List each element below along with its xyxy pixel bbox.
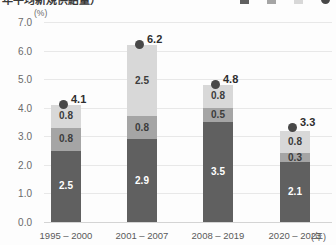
- segment-value-label: 2.1: [280, 187, 310, 197]
- total-marker-dot: [59, 100, 68, 109]
- bar-segment-top: 0.8: [280, 131, 310, 154]
- y-tick-label: 6.0: [6, 46, 32, 57]
- gridline-5.0: [44, 79, 332, 80]
- bar-segment-bottom: 3.5: [203, 122, 233, 222]
- segment-value-label: 2.5: [51, 181, 81, 191]
- segment-value-label: 0.8: [127, 123, 157, 133]
- bar-segment-top: 2.5: [127, 45, 157, 116]
- total-marker-dot: [135, 40, 144, 49]
- bar-segment-bottom: 2.1: [280, 162, 310, 222]
- bar-segment-top: 0.8: [203, 85, 233, 108]
- gridline-0.0: [44, 222, 332, 223]
- segment-value-label: 0.5: [203, 110, 233, 120]
- bar-segment-middle: 0.3: [280, 153, 310, 162]
- stacked-bar-chart: (%) (年) 0.01.02.03.04.05.06.07.02.50.80.…: [0, 0, 336, 245]
- segment-value-label: 0.8: [51, 111, 81, 121]
- bar-segment-top: 0.8: [51, 105, 81, 128]
- total-value-label: 6.2: [147, 33, 162, 45]
- segment-value-label: 2.9: [127, 176, 157, 186]
- y-tick-label: 0.0: [6, 217, 32, 228]
- gridline-4.0: [44, 108, 332, 109]
- y-tick-label: 1.0: [6, 188, 32, 199]
- y-tick-label: 5.0: [6, 74, 32, 85]
- segment-value-label: 0.8: [203, 91, 233, 101]
- segment-value-label: 3.5: [203, 167, 233, 177]
- bar-segment-bottom: 2.9: [127, 139, 157, 222]
- y-tick-label: 7.0: [6, 17, 32, 28]
- total-value-label: 4.1: [71, 93, 86, 105]
- gridline-6.0: [44, 51, 332, 52]
- y-tick-label: 3.0: [6, 131, 32, 142]
- segment-value-label: 2.5: [127, 76, 157, 86]
- bar-segment-bottom: 2.5: [51, 151, 81, 222]
- total-marker-dot: [211, 80, 220, 89]
- segment-value-label: 0.8: [280, 137, 310, 147]
- gridline-7.0: [44, 22, 332, 23]
- bar-segment-middle: 0.8: [51, 128, 81, 151]
- segment-value-label: 0.3: [280, 153, 310, 163]
- total-value-label: 3.3: [300, 116, 315, 128]
- total-value-label: 4.8: [223, 73, 238, 85]
- total-marker-dot: [288, 123, 297, 132]
- bar-segment-middle: 0.5: [203, 108, 233, 122]
- bar-segment-middle: 0.8: [127, 116, 157, 139]
- x-tick-label: 2020 – 2023: [250, 230, 336, 241]
- y-tick-label: 2.0: [6, 160, 32, 171]
- segment-value-label: 0.8: [51, 134, 81, 144]
- y-axis-unit-label: (%): [34, 8, 47, 18]
- y-tick-label: 4.0: [6, 103, 32, 114]
